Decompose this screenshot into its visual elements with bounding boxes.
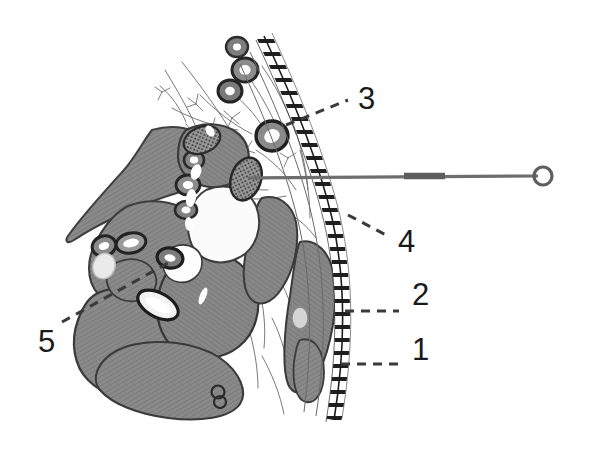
needle-shaft <box>248 176 538 178</box>
callout-label-1: 1 <box>412 334 429 365</box>
anatomical-figure: 1 2 3 4 5 <box>0 0 590 457</box>
callout-label-3: 3 <box>358 83 375 114</box>
anatomy-illustration <box>0 0 590 457</box>
callout-label-2: 2 <box>412 279 429 310</box>
callout-label-5: 5 <box>38 326 55 357</box>
vessel-pale-oval-right <box>292 307 308 329</box>
callout-label-4: 4 <box>398 226 415 257</box>
